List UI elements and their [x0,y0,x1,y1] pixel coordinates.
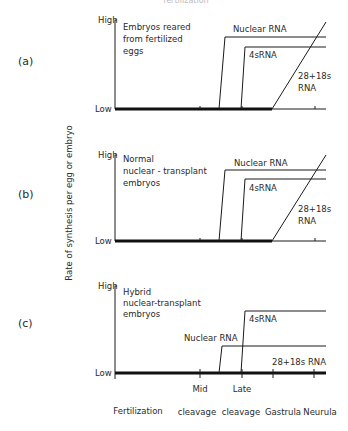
panel-c-28-18s-label: 28+18s RNA [272,357,326,367]
panel-b-title-line-2: nuclear - transplant [123,166,207,176]
stage-neurula: Neurula [303,407,336,417]
panel-a-title-line-1: Embryos reared [123,22,191,32]
panel-c: (c) High Low Hybrid nuclear-transplant e… [18,281,326,379]
panel-c-low-label: Low [95,368,112,378]
panel-b-4s-rna-label: 4sRNA [249,183,277,193]
panel-a-title-line-2: from fertilized [123,34,183,44]
panel-b-title-line-3: embryos [123,178,161,188]
stage-gastrula: Gastrula [265,407,301,417]
header-fragment: fertilization [163,0,208,5]
panel-c-title-line-3: embryos [123,309,161,319]
panel-a-nuclear-rna-label: Nuclear RNA [233,24,287,34]
panel-c-nuclear-rna-label: Nuclear RNA [184,333,238,343]
panel-b-label: (b) [18,188,34,201]
y-axis-label: Rate of synthesis per egg or embryo [64,125,74,280]
stage-late-cleavage: cleavage [222,407,260,417]
panel-a-low-label: Low [95,104,112,114]
rna-synthesis-diagram: fertilization Rate of synthesis per egg … [0,0,348,431]
panel-c-title-line-1: Hybrid [123,287,151,297]
panel-a-28-18s-label-line-1: 28+18s [298,71,332,81]
panel-b-title-line-1: Normal [123,154,154,164]
panel-b-nuclear-rna-label: Nuclear RNA [234,158,288,168]
panel-a-28-18s-rna-line [272,22,326,109]
stage-mid-cleavage: cleavage [178,407,216,417]
panel-b-y-axis [115,155,117,241]
x-axis-stage-labels: Mid Late Fertilization cleavage cleavage… [113,384,336,417]
panel-b-28-18s-label-line-1: 28+18s [298,204,332,214]
stage-late-top: Late [233,384,252,394]
panel-c-y-axis [115,286,117,379]
panel-a-title-line-3: eggs [123,46,144,56]
stage-fertilization: Fertilization [113,406,163,416]
stage-mid-top: Mid [192,384,207,394]
panel-a-label: (a) [18,55,33,68]
panel-c-label: (c) [18,317,33,330]
panel-a-y-axis [115,20,117,109]
panel-b-28-18s-label-line-2: RNA [298,216,316,226]
panel-b-low-label: Low [95,236,112,246]
panel-a: (a) High Low Embryos reared from fertili… [18,15,332,114]
panel-a-4s-rna-label: 4sRNA [249,50,277,60]
panel-a-28-18s-label-line-2: RNA [298,83,316,93]
panel-c-4s-rna-label: 4sRNA [249,314,277,324]
panel-c-title-line-2: nuclear-transplant [123,298,201,308]
